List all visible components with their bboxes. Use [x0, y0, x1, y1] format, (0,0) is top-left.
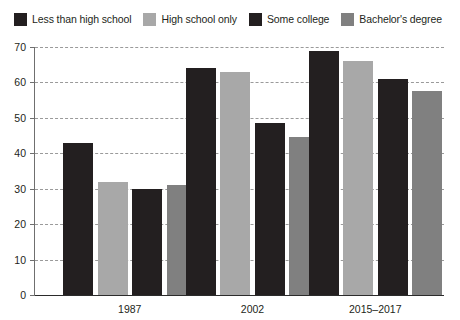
bar	[378, 79, 408, 295]
bar	[186, 68, 216, 295]
x-axis-tick-label: 1987	[118, 303, 141, 315]
legend-item-label: Bachelor's degree	[359, 13, 442, 26]
legend-swatch-high-school-only	[143, 13, 156, 26]
bars-layer	[35, 47, 444, 295]
bar	[343, 61, 373, 295]
y-axis-tick-label: 0	[20, 289, 26, 301]
y-axis-tick-label: 70	[14, 41, 26, 53]
y-axis-tick-label: 60	[14, 76, 26, 88]
legend-swatch-bachelors-degree	[341, 13, 354, 26]
bar	[63, 143, 93, 295]
legend-item[interactable]: Less than high school	[14, 13, 131, 26]
x-axis-tick-label: 2002	[241, 303, 264, 315]
legend-item-label: Less than high school	[32, 13, 131, 26]
bar	[309, 51, 339, 295]
y-axis-tick-mark	[30, 295, 35, 296]
chart-legend: Less than high schoolHigh school onlySom…	[14, 13, 454, 26]
bar-chart: Less than high schoolHigh school onlySom…	[0, 0, 460, 320]
bar	[255, 123, 285, 295]
bar	[132, 189, 162, 295]
legend-item[interactable]: Bachelor's degree	[341, 13, 442, 26]
x-axis-tick-label: 2015–2017	[349, 303, 402, 315]
y-axis-tick-label: 40	[14, 147, 26, 159]
bar	[98, 182, 128, 295]
legend-item[interactable]: Some college	[249, 13, 329, 26]
y-axis-tick-label: 10	[14, 254, 26, 266]
legend-item-label: High school only	[161, 13, 236, 26]
y-axis-tick-label: 50	[14, 112, 26, 124]
legend-item[interactable]: High school only	[143, 13, 236, 26]
legend-swatch-some-college	[249, 13, 262, 26]
y-axis-tick-label: 30	[14, 183, 26, 195]
bar	[220, 72, 250, 295]
y-axis-tick-label: 20	[14, 218, 26, 230]
plot-area: 010203040506070 198720022015–2017	[34, 47, 444, 296]
legend-swatch-less-than-high-school	[14, 13, 27, 26]
bar	[412, 91, 442, 295]
legend-item-label: Some college	[267, 13, 329, 26]
